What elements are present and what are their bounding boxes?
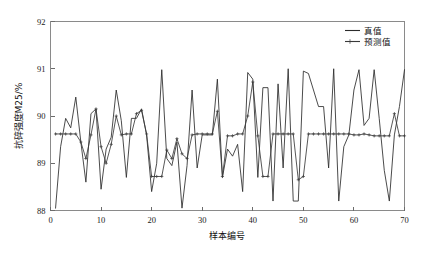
line-chart: 8889909192 010203040506070 样本编号 抗碎强度M25/… <box>0 0 425 262</box>
x-tick-label: 30 <box>198 215 207 225</box>
y-tick-label: 90 <box>37 111 46 121</box>
y-tick-label: 89 <box>37 158 46 168</box>
legend-label-true-value: 真值 <box>364 26 382 36</box>
x-axis-title: 样本编号 <box>209 230 245 241</box>
x-tick-label: 60 <box>350 215 359 225</box>
x-tick-label: 0 <box>48 215 52 225</box>
chart-legend: 真值 预测值 <box>340 22 404 48</box>
x-tick-label: 20 <box>147 215 156 225</box>
x-tick-label: 40 <box>249 215 258 225</box>
x-tick-label: 50 <box>299 215 308 225</box>
x-tick-label: 10 <box>97 215 106 225</box>
chart-figure: 8889909192 010203040506070 样本编号 抗碎强度M25/… <box>0 0 425 262</box>
y-tick-label: 88 <box>37 206 46 216</box>
y-tick-label: 92 <box>37 17 46 27</box>
legend-label-predicted-value: 预测值 <box>364 37 391 47</box>
y-axis-title: 抗碎强度M25/% <box>13 82 24 149</box>
x-tick-label: 70 <box>400 215 409 225</box>
y-tick-label: 91 <box>37 64 46 74</box>
